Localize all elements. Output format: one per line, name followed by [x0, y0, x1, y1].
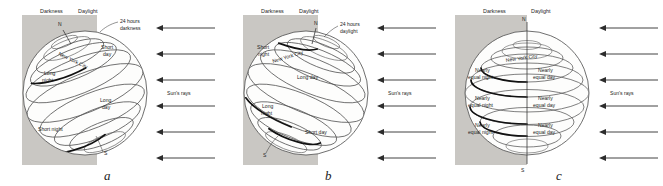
panel-a-letter: a	[104, 168, 111, 183]
panel-c-darkness-label: Darkness	[483, 8, 506, 14]
panel-c: Darkness Daylight N S New York City Near…	[455, 8, 658, 183]
panel-b-polar-callout-line1: 24 hours	[340, 21, 360, 27]
panel-c-nearly-4: Nearly	[538, 95, 553, 101]
panel-a-polar-callout-leader	[100, 22, 118, 32]
panel-b-suns-rays: Sun's rays	[377, 25, 436, 161]
panel-c-north-pole-label: N	[522, 16, 526, 22]
panel-a-polar-callout-line1: 24 hours	[120, 18, 140, 24]
panel-c-letter: c	[556, 168, 562, 183]
panel-c-suns-rays-label: Sun's rays	[610, 90, 634, 96]
panel-a: Darkness Daylight N S 24 hours darkness …	[5, 8, 215, 183]
panel-b-suns-rays-label: Sun's rays	[388, 90, 412, 96]
panel-c-equal-day-3: equal day	[533, 129, 556, 135]
panel-a-long-night-line2: night	[42, 77, 54, 83]
panel-b-daylight-label: Daylight	[299, 8, 319, 14]
panel-c-equal-night-1: equal night	[468, 74, 494, 80]
panel-a-short-day-line2: day	[103, 51, 112, 57]
panel-b-long-day-label: Long day	[297, 74, 318, 80]
panel-c-nearly-3: Nearly	[475, 95, 490, 101]
panel-c-south-pole-label: S	[521, 167, 525, 173]
panel-a-long-day-line1: Long	[100, 97, 111, 103]
panel-a-polar-callout-line2: darkness	[120, 25, 141, 31]
panel-c-equal-night-3: equal night	[468, 129, 494, 135]
panel-b-long-night-line1: Long	[262, 103, 273, 109]
panel-b: Darkness Daylight N S 24 hours daylight …	[226, 8, 436, 183]
panel-a-darkness-label: Darkness	[40, 8, 63, 14]
panel-a-short-day-line1: Short	[101, 44, 114, 50]
panel-b-letter: b	[325, 168, 332, 183]
panel-c-equal-day-1: equal day	[533, 74, 556, 80]
panel-c-daylight-label: Daylight	[531, 8, 551, 14]
panel-c-nearly-1: Nearly	[475, 67, 490, 73]
panel-c-nearly-6: Nearly	[538, 122, 553, 128]
panel-b-short-day-label: Short day	[305, 129, 327, 135]
panel-b-polar-callout-line2: daylight	[340, 28, 358, 34]
panel-c-equal-night-2: equal night	[468, 102, 494, 108]
panel-a-short-night-label: Short night	[38, 126, 63, 132]
panel-a-long-day-line2: day	[102, 104, 111, 110]
panel-a-suns-rays-label: Sun's rays	[167, 90, 191, 96]
panel-a-daylight-label: Daylight	[78, 8, 98, 14]
panel-a-globe	[23, 31, 147, 155]
panel-b-north-pole-label: N	[314, 20, 318, 26]
panel-a-suns-rays: Sun's rays	[156, 25, 215, 161]
earth-seasons-figure: Darkness Daylight N S 24 hours darkness …	[0, 0, 663, 186]
panel-a-long-night-line1: Long	[44, 70, 55, 76]
panel-c-nearly-2: Nearly	[538, 67, 553, 73]
panel-b-short-night-line1: Short	[257, 44, 270, 50]
panel-b-short-night-line2: night	[258, 51, 270, 57]
panel-c-equal-day-2: equal day	[533, 102, 556, 108]
panel-c-nearly-5: Nearly	[475, 122, 490, 128]
panel-b-long-night-line2: night	[261, 110, 273, 116]
panel-b-darkness-label: Darkness	[261, 8, 284, 14]
panel-c-suns-rays: Sun's rays	[599, 25, 658, 161]
panel-a-north-pole-label: N	[58, 21, 62, 27]
